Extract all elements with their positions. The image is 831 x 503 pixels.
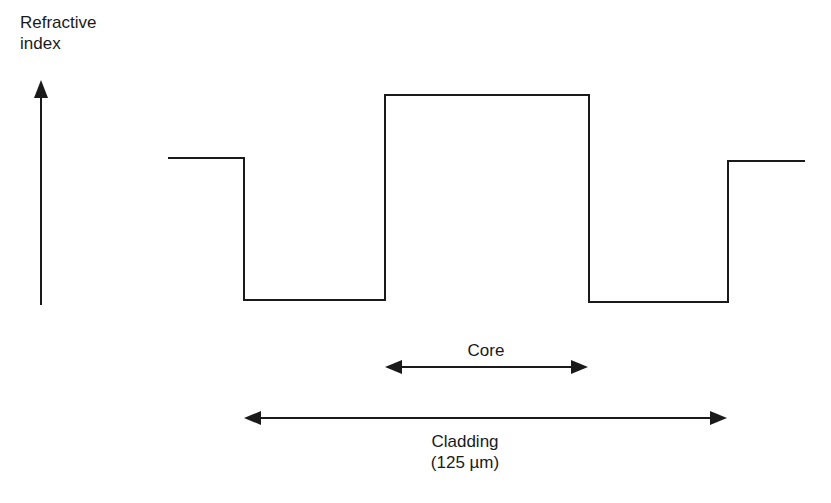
cladding-label: Cladding (125 µm) bbox=[405, 431, 525, 473]
cladding-label-text: Cladding bbox=[405, 431, 525, 452]
core-label: Core bbox=[436, 340, 536, 361]
y-axis-arrow bbox=[34, 80, 48, 305]
cladding-width-arrow bbox=[244, 411, 727, 425]
cladding-size-text: (125 µm) bbox=[405, 452, 525, 473]
core-width-arrow bbox=[385, 360, 588, 374]
refractive-index-diagram bbox=[0, 0, 831, 503]
index-profile-line bbox=[168, 95, 805, 302]
